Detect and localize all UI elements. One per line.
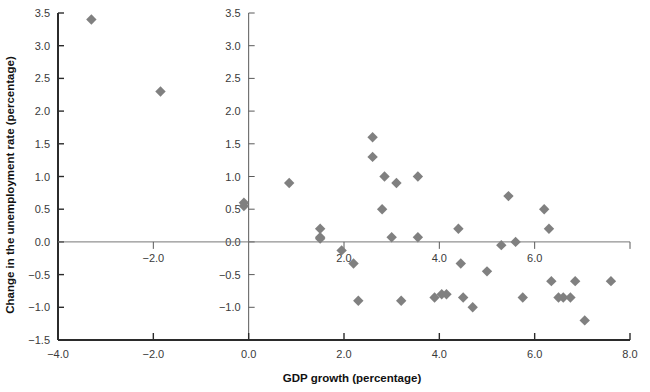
y-axis-left-tick-label: −1.0 (28, 301, 50, 313)
x-axis: −4.0−2.00.02.04.06.08.0 (47, 333, 638, 360)
data-point-marker (453, 224, 463, 234)
y-axis-secondary-tick-label: 3.5 (225, 7, 240, 19)
plot-axes: −1.5−1.0−0.50.00.51.01.52.02.53.03.5 −1.… (28, 7, 637, 360)
data-point-marker (546, 276, 556, 286)
data-point-marker (518, 292, 528, 302)
data-point-marker (391, 178, 401, 188)
y-axis-secondary-tick-label: −0.5 (219, 269, 241, 281)
y-axis-left-tick-label: 3.0 (35, 40, 50, 52)
data-point-layer (86, 14, 616, 325)
y-axis-secondary: −1.0−0.50.00.51.01.52.02.53.03.5 (219, 7, 255, 340)
x-axis-tick-label: 2.0 (336, 348, 351, 360)
axis-titles: GDP growth (percentage) Change in the un… (4, 56, 421, 384)
x-axis-title: GDP growth (percentage) (283, 372, 422, 384)
data-point-marker (539, 204, 549, 214)
data-point-marker (396, 296, 406, 306)
y-axis-left-tick-label: 2.0 (35, 105, 50, 117)
y-axis-left-tick-label: 1.0 (35, 171, 50, 183)
x-axis-tick-label: −2.0 (142, 348, 164, 360)
data-point-marker (580, 315, 590, 325)
y-axis-left-tick-label: 0.0 (35, 236, 50, 248)
data-point-marker (367, 132, 377, 142)
x-axis-tick-label: 0.0 (241, 348, 256, 360)
data-point-marker (570, 276, 580, 286)
zero-line-tick-label: 2.0 (336, 252, 351, 264)
y-axis-left-tick-label: −1.5 (28, 334, 50, 346)
y-axis-secondary-tick-label: 3.0 (225, 40, 240, 52)
data-point-marker (503, 191, 513, 201)
data-point-marker (86, 14, 96, 24)
x-axis-tick-label: 6.0 (527, 348, 542, 360)
data-point-marker (413, 232, 423, 242)
data-point-marker (606, 276, 616, 286)
y-axis-secondary-tick-label: −1.0 (219, 301, 241, 313)
zero-line-tick-label: 4.0 (432, 252, 447, 264)
x-axis-tick-label: −4.0 (47, 348, 69, 360)
data-point-marker (155, 86, 165, 96)
y-axis-secondary-tick-label: 2.5 (225, 72, 240, 84)
data-point-marker (544, 224, 554, 234)
data-point-marker (565, 292, 575, 302)
y-axis-left: −1.5−1.0−0.50.00.51.01.52.02.53.03.5 (28, 7, 64, 346)
zero-line-tick-label: 6.0 (527, 252, 542, 264)
y-axis-left-tick-label: 2.5 (35, 72, 50, 84)
data-point-marker (367, 152, 377, 162)
y-axis-secondary-tick-label: 0.5 (225, 203, 240, 215)
data-point-marker (510, 237, 520, 247)
zero-line-tick-label: −2.0 (142, 252, 164, 264)
data-point-marker (468, 302, 478, 312)
scatter-chart-figure: −1.5−1.0−0.50.00.51.01.52.02.53.03.5 −1.… (0, 0, 650, 392)
y-axis-secondary-tick-label: 1.5 (225, 138, 240, 150)
data-point-marker (482, 266, 492, 276)
data-point-marker (377, 204, 387, 214)
x-axis-tick-label: 4.0 (432, 348, 447, 360)
data-point-marker (379, 171, 389, 181)
y-axis-left-tick-label: 0.5 (35, 203, 50, 215)
data-point-marker (353, 296, 363, 306)
data-point-marker (458, 292, 468, 302)
y-axis-secondary-tick-label: 2.0 (225, 105, 240, 117)
data-point-marker (284, 178, 294, 188)
x-axis-tick-label: 8.0 (622, 348, 637, 360)
y-axis-title: Change in the unemployment rate (percent… (4, 56, 16, 314)
y-axis-secondary-tick-label: 1.0 (225, 171, 240, 183)
data-point-marker (413, 171, 423, 181)
y-axis-left-tick-label: 1.5 (35, 138, 50, 150)
data-point-marker (386, 232, 396, 242)
data-point-marker (456, 258, 466, 268)
plot-canvas: −1.5−1.0−0.50.00.51.01.52.02.53.03.5 −1.… (0, 0, 650, 392)
y-axis-left-tick-label: 3.5 (35, 7, 50, 19)
y-axis-left-tick-label: −0.5 (28, 269, 50, 281)
